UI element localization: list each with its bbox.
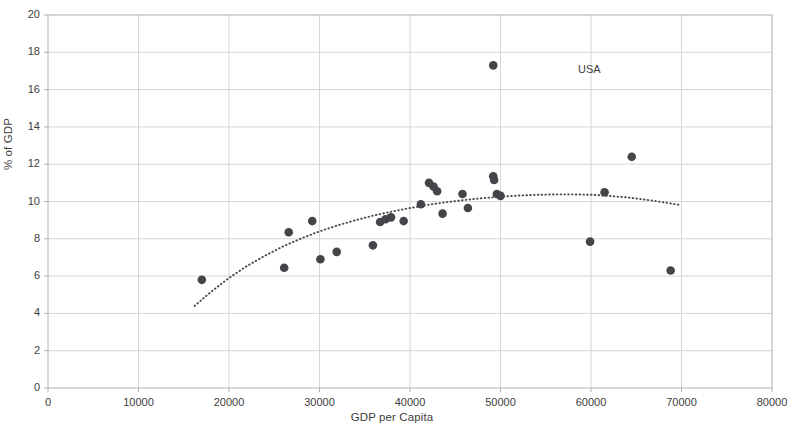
x-tick-label: 70000 [652, 396, 712, 408]
data-points [198, 152, 675, 284]
y-tick-label: 10 [12, 195, 40, 207]
x-tick-label: 30000 [290, 396, 350, 408]
usa-series-label: USA [578, 63, 601, 75]
y-tick-label: 20 [12, 8, 40, 20]
y-tick-label: 8 [12, 232, 40, 244]
y-tick-label: 0 [12, 381, 40, 393]
y-tick-label: 6 [12, 269, 40, 281]
y-tick-label: 2 [12, 344, 40, 356]
x-tick-label: 10000 [109, 396, 169, 408]
y-tick-label: 18 [12, 45, 40, 57]
y-tick-label: 14 [12, 120, 40, 132]
x-axis-title: GDP per Capita [0, 411, 784, 423]
x-tick-label: 50000 [471, 396, 531, 408]
y-tick-label: 12 [12, 157, 40, 169]
y-tick-label: 4 [12, 306, 40, 318]
x-tick-label: 80000 [742, 396, 792, 408]
x-tick-label: 60000 [561, 396, 621, 408]
trend-line [195, 194, 682, 306]
usa-highlight-point [489, 61, 498, 70]
x-tick-label: 20000 [199, 396, 259, 408]
x-tick-label: 40000 [380, 396, 440, 408]
y-tick-label: 16 [12, 83, 40, 95]
axis-ticks [44, 15, 772, 392]
x-tick-label: 0 [18, 396, 78, 408]
